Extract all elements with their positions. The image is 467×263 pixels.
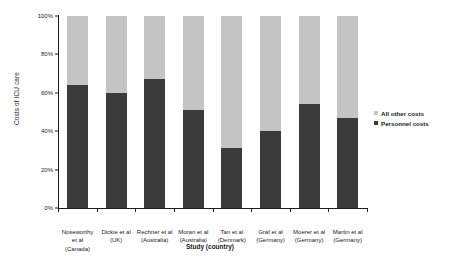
bar-column[interactable] [106, 16, 127, 208]
bar-segment-personnel-costs [183, 110, 204, 208]
legend-label-all-other-costs: All other costs [381, 110, 424, 117]
legend-swatch-personnel-costs [374, 121, 378, 125]
legend-item-personnel-costs: Personnel costs [374, 118, 429, 128]
bar-column[interactable] [337, 16, 358, 208]
legend-item-all-other-costs: All other costs [374, 108, 429, 118]
bar-segment-personnel-costs [260, 131, 281, 208]
bar-segment-personnel-costs [144, 79, 165, 208]
bar-segment-all-other-costs [183, 16, 204, 110]
bar-column[interactable] [67, 16, 88, 208]
y-axis-tick-mark [55, 54, 58, 55]
bar-segment-personnel-costs [221, 148, 242, 208]
x-axis-tick-mark [58, 208, 59, 212]
y-axis-tick-mark [55, 92, 58, 93]
bar-segment-all-other-costs [144, 16, 165, 79]
bar-segment-all-other-costs [106, 16, 127, 93]
x-axis-tick-mark [174, 208, 175, 212]
stacked-bar-chart: Costs of ICU care 0%20%40%60%80%100%Nose… [0, 0, 467, 263]
bar-segment-all-other-costs [299, 16, 320, 104]
x-axis-tick-mark [251, 208, 252, 212]
bar-segment-personnel-costs [67, 85, 88, 208]
y-axis-tick-mark [55, 16, 58, 17]
legend-swatch-all-other-costs [374, 111, 378, 115]
bar-column[interactable] [260, 16, 281, 208]
x-axis-tick-mark [290, 208, 291, 212]
x-axis-tick-mark [135, 208, 136, 212]
bar-column[interactable] [221, 16, 242, 208]
bar-segment-personnel-costs [299, 104, 320, 208]
x-axis-tick-mark [213, 208, 214, 212]
y-axis-title: Costs of ICU care [13, 34, 20, 164]
x-axis-tick-mark [97, 208, 98, 212]
chart-legend: All other costs Personnel costs [374, 108, 429, 128]
bar-segment-personnel-costs [337, 118, 358, 208]
y-axis-tick-mark [55, 169, 58, 170]
bar-segment-all-other-costs [67, 16, 88, 85]
x-axis-title: Study (country) [0, 243, 420, 250]
bar-column[interactable] [183, 16, 204, 208]
bar-column[interactable] [299, 16, 320, 208]
legend-label-personnel-costs: Personnel costs [381, 120, 429, 127]
x-axis-tick-mark [328, 208, 329, 212]
x-axis-tick-mark [367, 208, 368, 212]
plot-area: 0%20%40%60%80%100%Noseworthyet al(Canada… [58, 16, 365, 208]
bar-segment-personnel-costs [106, 93, 127, 208]
bar-column[interactable] [144, 16, 165, 208]
bar-segment-all-other-costs [221, 16, 242, 148]
y-axis-tick-mark [55, 131, 58, 132]
bar-segment-all-other-costs [337, 16, 358, 118]
bar-segment-all-other-costs [260, 16, 281, 131]
x-axis-label-line: Martin et al [317, 228, 379, 236]
